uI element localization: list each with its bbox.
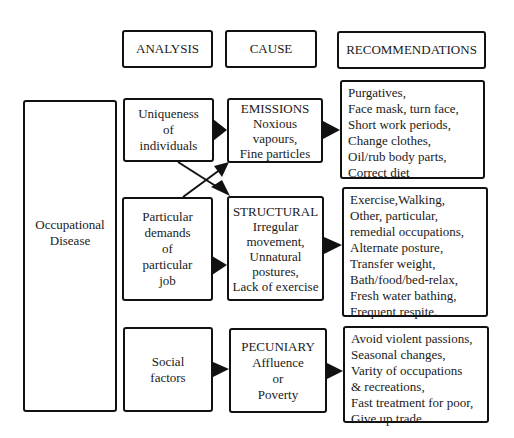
arrow-particular-to-emissions (183, 162, 229, 197)
recommendation-item: Varity of occupations (351, 363, 487, 379)
arrow-uniqueness-to-emissions (213, 119, 227, 141)
root-occupational-disease: Occupational Disease (23, 100, 117, 412)
recommendation-item: Alternate posture, (350, 240, 486, 256)
recommendation-item: Fresh water bathing, (350, 288, 486, 304)
recommendation-item: Transfer weight, (350, 256, 486, 272)
root-line: Occupational (25, 217, 115, 233)
arrow-structural-to-recommendations (324, 237, 342, 254)
cause-line: Poverty (231, 387, 325, 403)
analysis-particular-demands: Particular demands of particular job (122, 197, 213, 301)
arrow-pecuniary-to-recommendations (327, 363, 343, 379)
recommendation-item: Correct diet (348, 165, 483, 181)
header-recommendations-label: RECOMMENDATIONS (346, 42, 477, 58)
cause-pecuniary: PECUNIARY Affluence or Poverty (229, 328, 327, 413)
cause-line: Unnatural (229, 249, 322, 264)
recommendation-item: Avoid violent passions, (351, 331, 487, 347)
cause-title: STRUCTURAL (229, 204, 322, 219)
header-cause-label: CAUSE (250, 41, 293, 57)
cause-line: postures, (229, 264, 322, 279)
cause-line: Affluence (231, 355, 325, 371)
cause-title: PECUNIARY (231, 339, 325, 355)
recommendation-item: Short work periods, (348, 117, 483, 133)
arrow-particular-to-structural (212, 256, 227, 275)
analysis-line: of (125, 122, 212, 138)
recommendation-item: Bath/food/bed-relax, (350, 272, 486, 288)
recommendation-item: Fast treatment for poor, (351, 395, 487, 411)
cause-line: Fine particles (229, 146, 321, 161)
recommendation-item: Oil/rub body parts, (348, 149, 483, 165)
cause-line: or (231, 371, 325, 387)
recommendation-item: Frequent respite. (350, 304, 486, 320)
recommendation-item: Purgatives, (348, 85, 483, 101)
cause-title: EMISSIONS (229, 101, 321, 116)
cause-line: movement, (229, 234, 322, 249)
header-analysis: ANALYSIS (122, 30, 213, 68)
analysis-line: of (124, 241, 211, 257)
recommendation-item: & recreations, (351, 379, 487, 395)
cause-line: Lack of exercise (229, 279, 322, 294)
recommendation-item: remedial occupations, (350, 224, 486, 240)
recommendations-structural: Exercise,Walking, Other, particular, rem… (342, 187, 488, 317)
analysis-line: Particular (124, 209, 211, 225)
recommendation-item: Other, particular, (350, 208, 486, 224)
analysis-line: Uniqueness (125, 106, 212, 122)
cause-line: Irregular (229, 219, 322, 234)
recommendation-item: Exercise,Walking, (350, 192, 486, 208)
analysis-line: job (124, 273, 211, 289)
analysis-line: factors (125, 370, 211, 386)
arrow-social-to-pecuniary (213, 362, 229, 377)
cause-line: Noxious (229, 116, 321, 131)
analysis-uniqueness-of-individuals: Uniqueness of individuals (123, 98, 214, 162)
recommendations-emissions: Purgatives, Face mask, turn face, Short … (340, 80, 485, 179)
cause-structural: STRUCTURAL Irregular movement, Unnatural… (227, 196, 324, 301)
cause-line: vapours, (229, 131, 321, 146)
header-cause: CAUSE (225, 30, 317, 68)
recommendations-pecuniary: Avoid violent passions, Seasonal changes… (343, 326, 489, 423)
header-analysis-label: ANALYSIS (136, 41, 199, 57)
root-line: Disease (25, 233, 115, 249)
recommendation-item: Face mask, turn face, (348, 101, 483, 117)
recommendation-item: Give up trade (351, 411, 487, 427)
cause-emissions: EMISSIONS Noxious vapours, Fine particle… (227, 98, 323, 163)
analysis-line: individuals (125, 138, 212, 154)
analysis-line: particular (124, 257, 211, 273)
analysis-social-factors: Social factors (123, 327, 213, 412)
analysis-line: demands (124, 225, 211, 241)
analysis-line: Social (125, 354, 211, 370)
recommendation-item: Change clothes, (348, 133, 483, 149)
arrow-uniqueness-to-structural (178, 162, 230, 196)
header-recommendations: RECOMMENDATIONS (337, 31, 486, 69)
recommendation-item: Seasonal changes, (351, 347, 487, 363)
arrow-emissions-to-recommendations (323, 121, 340, 139)
